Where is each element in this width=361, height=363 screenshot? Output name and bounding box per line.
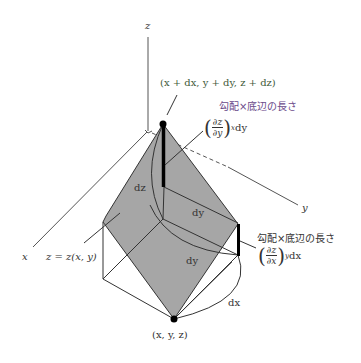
upper-annotation-caption: 勾配×底辺の長さ [219,98,297,113]
z-axis-label: z [145,20,150,31]
paren-open: ( [258,246,266,266]
dx-label: dx [228,297,240,308]
numerator: ∂z [266,245,277,256]
fraction: ∂z ∂y [212,117,223,138]
denominator: ∂y [213,128,223,138]
right-annotation-caption: 勾配×底辺の長さ [257,230,335,245]
partial-derivative-diagram [0,0,361,363]
bottom-point [171,316,178,323]
factor: dx [289,250,301,261]
y-axis-label: y [302,202,308,213]
right-annotation-formula: ( ∂z ∂x ) y dx [258,245,301,266]
top-point-label: (x + dx, y + dy, z + dz) [160,77,276,88]
factor: dy [235,122,247,133]
paren-close: ) [277,246,285,266]
x-axis-label: x [22,251,28,262]
top-point-leader [167,95,177,115]
dy-lower-label: dy [186,255,198,266]
dz-label: dz [134,182,146,193]
bottom-point-label: (x, y, z) [152,329,188,340]
top-point [160,121,167,128]
paren-open: ( [204,118,212,138]
dy-upper-label: dy [192,207,204,218]
numerator: ∂z [212,117,223,128]
fraction: ∂z ∂x [266,245,277,266]
right-annotation-leader [240,241,256,248]
upper-annotation-formula: ( ∂z ∂y ) x dy [204,117,247,138]
paren-close: ) [223,118,231,138]
y-axis [228,167,298,205]
denominator: ∂x [267,256,277,266]
surface-label: z = z(x, y) [46,251,97,262]
